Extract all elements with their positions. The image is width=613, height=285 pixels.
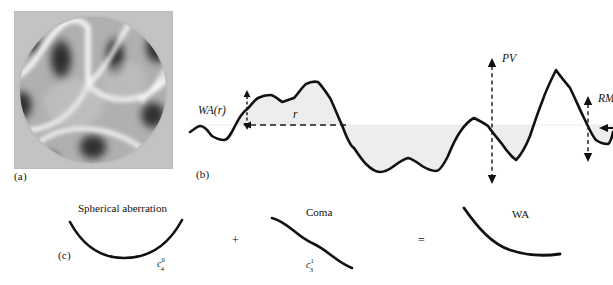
equals-operator: =	[418, 233, 425, 247]
radius-label: r	[293, 108, 298, 120]
spherical-aberration-label: Spherical aberration	[78, 202, 167, 214]
wavefront-profile-panel: WA(r) r PV RMS	[190, 40, 613, 185]
panel-b-label: (b)	[196, 168, 209, 180]
spherical-aberration-coefficient: c04	[157, 256, 165, 272]
pv-arrow	[488, 58, 496, 184]
panel-a-label: (a)	[14, 170, 27, 182]
wa-r-label: WA(r)	[198, 104, 226, 117]
plus-operator: +	[232, 233, 239, 247]
aberration-decomposition-panel: Spherical aberration c04 + Coma c13 = WA	[40, 196, 580, 285]
figure-root: (a)	[0, 0, 613, 285]
coma-label: Coma	[306, 206, 332, 218]
spherical-aberration-curve	[70, 220, 182, 258]
pv-label: PV	[501, 52, 518, 64]
wavefront-map-image	[14, 11, 173, 169]
rms-label: RMS	[597, 92, 613, 104]
coma-coefficient: c13	[306, 257, 314, 273]
wavefront-map-panel	[14, 11, 173, 169]
panel-c-label: (c)	[58, 249, 71, 261]
wa-label: WA	[512, 208, 529, 220]
